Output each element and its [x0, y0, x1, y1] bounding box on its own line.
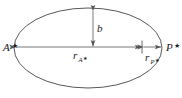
periapsis-radius-subscript: P — [150, 58, 155, 65]
periapsis-radius-symbol: r — [145, 51, 150, 63]
apoapsis-label-star-icon: ★ — [12, 42, 18, 50]
apoapsis-label: A ★ — [2, 41, 18, 53]
apoapsis-label-symbol: A — [2, 41, 10, 53]
apoapsis-radius-subscript: A — [78, 56, 83, 63]
ellipse-outline — [14, 8, 162, 88]
apoapsis-radius-symbol: r — [73, 49, 78, 61]
periapsis-label-symbol: P — [165, 41, 173, 53]
apoapsis-radius-subscript-star-icon: ★ — [83, 56, 88, 61]
ellipse-orbit-figure: A ★ P ★ b r A ★ r P ★ — [0, 0, 182, 98]
periapsis-label-star-icon: ★ — [174, 42, 180, 50]
apoapsis-radius-label: r A ★ — [73, 49, 88, 63]
periapsis-radius-label: r P ★ — [145, 51, 160, 65]
periapsis-label: P ★ — [165, 41, 180, 53]
diagram-canvas: A ★ P ★ b r A ★ r P ★ — [0, 0, 182, 98]
semi-minor-axis-label: b — [97, 22, 103, 34]
